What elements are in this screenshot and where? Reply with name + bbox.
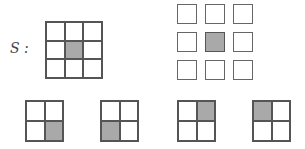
grid-cell [253,121,272,141]
grid-cell [272,121,291,141]
small-2x2-grid-1 [25,100,64,142]
shaded-cell [101,121,120,141]
grid-cell [46,41,65,60]
grid-cell [233,4,253,24]
small-2x2-grid-4 [252,100,291,142]
grid-cell [26,121,45,141]
grid-cell [178,101,197,121]
grid-cell [46,59,65,78]
grid-cell [83,22,102,41]
grid-cell [65,59,84,78]
shaded-cell [65,41,84,60]
grid-cell [45,101,64,121]
grid-cell [178,121,197,141]
grid-cell [26,101,45,121]
separated-3x3-grid [177,4,253,80]
grid-cell [101,101,120,121]
grid-cell [120,121,139,141]
grid-cell [205,60,225,80]
shaded-cell [253,101,272,121]
stencil-3x3-grid [45,21,103,79]
grid-cell [205,4,225,24]
grid-cell [177,4,197,24]
set-label-s: S : [10,40,29,56]
small-2x2-grid-2 [100,100,139,142]
grid-cell [197,121,216,141]
grid-cell [233,32,253,52]
grid-cell [233,60,253,80]
grid-cell [177,60,197,80]
grid-cell [120,101,139,121]
grid-cell [272,101,291,121]
shaded-cell [45,121,64,141]
small-2x2-grid-3 [177,100,216,142]
grid-cell [177,32,197,52]
grid-cell [83,59,102,78]
grid-cell [83,41,102,60]
grid-cell [46,22,65,41]
shaded-cell [205,32,225,52]
grid-cell [65,22,84,41]
shaded-cell [197,101,216,121]
